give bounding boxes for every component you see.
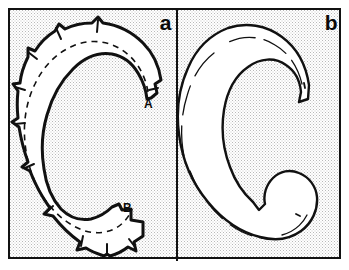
panel-letter-b: b [325,12,337,33]
feature-label-a-upper: A [144,98,153,110]
specimen-drawing-b [178,10,343,261]
specimen-body-b [178,25,317,239]
panel-b[interactable]: b [178,10,343,261]
figure-frame: a A B [8,8,341,259]
feature-label-a-lower: B [123,202,132,214]
panel-letter-a: a [160,12,171,33]
panel-a[interactable]: a A B [10,10,176,261]
specimen-drawing-a [10,10,176,261]
specimen-body-a [12,17,161,256]
figure-plate: a A B [0,0,349,270]
